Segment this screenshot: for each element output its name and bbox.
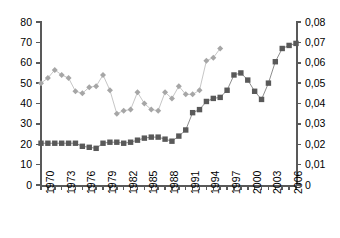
right-axis-tick [297, 82, 301, 84]
data-point-marker [100, 72, 106, 78]
data-point-marker [190, 91, 196, 97]
right-axis-tick [297, 164, 301, 166]
data-point-marker [280, 46, 285, 51]
left-axis-tick [36, 164, 40, 166]
right-axis-tick-label: 0,07 [305, 37, 325, 48]
data-point-marker [114, 111, 120, 117]
data-point-marker [45, 141, 50, 146]
data-point-marker [162, 136, 167, 141]
right-axis-tick-label: 0,02 [305, 139, 325, 150]
left-axis-tick-label: 40 [20, 98, 32, 109]
data-point-marker [121, 108, 127, 114]
right-axis-tick [297, 21, 301, 23]
data-point-marker [231, 72, 236, 77]
left-axis-tick-label: 60 [20, 57, 32, 68]
data-point-marker [114, 140, 119, 145]
x-axis-tick [40, 186, 42, 190]
data-point-marker [93, 146, 98, 151]
data-point-marker [80, 144, 85, 149]
x-axis-tick [288, 186, 290, 190]
data-point-marker [142, 135, 147, 140]
data-point-marker [266, 80, 271, 85]
x-axis-tick [102, 186, 104, 190]
data-point-marker [169, 138, 174, 143]
right-axis-tick-label: 0,01 [305, 159, 325, 170]
data-point-marker [59, 141, 64, 146]
data-point-marker [128, 140, 133, 145]
data-point-marker [52, 141, 57, 146]
data-point-marker [155, 134, 160, 139]
data-point-marker [176, 133, 181, 138]
data-point-marker [224, 88, 229, 93]
left-axis-tick [36, 123, 40, 125]
data-point-marker [66, 141, 71, 146]
left-axis-tick [36, 62, 40, 64]
right-axis-tick-label: 0,05 [305, 78, 325, 89]
data-point-marker [107, 140, 112, 145]
right-axis-tick-label: 0,03 [305, 118, 325, 129]
x-axis-tick [206, 186, 208, 190]
data-point-marker [121, 141, 126, 146]
data-point-marker [93, 83, 99, 89]
right-axis-tick-label: 0 [305, 180, 311, 191]
x-axis-tick [144, 186, 146, 190]
x-axis-tick [268, 186, 270, 190]
data-point-marker [73, 141, 78, 146]
data-point-marker [190, 110, 195, 115]
x-axis-tick [164, 186, 166, 190]
left-axis-tick [36, 21, 40, 23]
data-point-marker [252, 89, 257, 94]
left-axis-tick-label: 30 [20, 118, 32, 129]
data-point-marker [245, 77, 250, 82]
left-axis-tick [36, 103, 40, 105]
series-diamond [38, 45, 223, 116]
data-point-marker [87, 145, 92, 150]
data-point-marker [100, 141, 105, 146]
right-axis-tick [297, 123, 301, 125]
right-axis-tick [297, 62, 301, 64]
data-point-marker [197, 107, 202, 112]
left-axis-tick-label: 70 [20, 37, 32, 48]
x-axis-tick [123, 186, 125, 190]
data-point-marker [38, 141, 43, 146]
data-point-marker [135, 137, 140, 142]
data-point-marker [183, 127, 188, 132]
right-axis-tick [297, 103, 301, 105]
data-series-svg [41, 22, 296, 185]
plot-area [41, 22, 296, 185]
data-point-marker [66, 75, 72, 81]
data-point-marker [211, 96, 216, 101]
chart-container: 01020304050607080 00,010,020,030,040,050… [0, 0, 340, 238]
right-axis-tick-label: 0,04 [305, 98, 325, 109]
data-point-marker [128, 107, 134, 113]
data-point-marker [107, 87, 113, 93]
data-point-marker [286, 43, 291, 48]
series-line [41, 48, 220, 113]
left-axis-tick-label: 20 [20, 139, 32, 150]
data-point-marker [238, 70, 243, 75]
x-axis-tick [226, 186, 228, 190]
left-axis-tick-label: 0 [26, 180, 32, 191]
data-point-marker [293, 41, 298, 46]
left-axis-tick-label: 10 [20, 159, 32, 170]
data-point-marker [204, 99, 209, 104]
data-point-marker [155, 108, 161, 114]
data-point-marker [149, 134, 154, 139]
data-point-marker [134, 89, 140, 95]
x-axis-tick [185, 186, 187, 190]
x-axis-tick [247, 186, 249, 190]
left-axis-tick-label: 50 [20, 78, 32, 89]
right-axis-tick [297, 144, 301, 146]
x-axis-tick [82, 186, 84, 190]
right-axis-tick-label: 0,06 [305, 57, 325, 68]
data-point-marker [273, 59, 278, 64]
data-point-marker [197, 87, 203, 93]
data-point-marker [259, 97, 264, 102]
x-axis-tick [61, 186, 63, 190]
right-axis-tick-label: 0,08 [305, 17, 325, 28]
data-point-marker [217, 95, 222, 100]
data-point-marker [203, 58, 209, 64]
data-point-marker [72, 88, 78, 94]
left-axis-tick [36, 42, 40, 44]
left-axis-tick-label: 80 [20, 17, 32, 28]
